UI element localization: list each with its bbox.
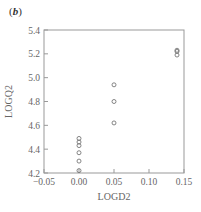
y-tick-label: 4.4 — [28, 145, 40, 155]
y-tick-label: 4.8 — [28, 97, 40, 107]
data-point — [112, 121, 116, 125]
axes: −0.050.000.050.100.154.24.44.64.85.05.25… — [28, 26, 192, 188]
x-tick-label: 0.00 — [71, 177, 88, 187]
x-tick-label: 0.10 — [141, 177, 158, 187]
y-tick-label: 4.2 — [28, 169, 40, 179]
x-tick-label: 0.15 — [176, 177, 193, 187]
x-tick-label: 0.05 — [106, 177, 123, 187]
scatter-chart: −0.050.000.050.100.154.24.44.64.85.05.25… — [0, 0, 201, 212]
data-point — [77, 159, 81, 163]
plot-frame — [44, 30, 184, 173]
x-tick-label: −0.05 — [33, 177, 55, 187]
x-axis-title: LOGD2 — [98, 191, 131, 202]
data-point — [112, 83, 116, 87]
y-tick-label: 4.6 — [28, 121, 40, 131]
y-tick-label: 5.0 — [28, 73, 40, 83]
data-points — [77, 48, 179, 172]
y-tick-label: 5.4 — [28, 26, 40, 36]
y-axis-title: LOGQ2 — [3, 85, 14, 118]
y-tick-label: 5.2 — [28, 49, 40, 59]
data-point — [77, 151, 81, 155]
data-point — [112, 100, 116, 104]
